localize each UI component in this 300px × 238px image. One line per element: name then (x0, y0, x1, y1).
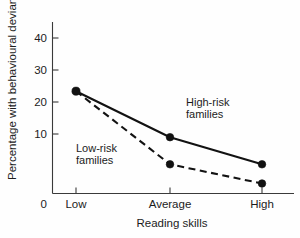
y-tick-label-30: 30 (34, 64, 47, 76)
high-risk-annotation-line1: High-risk (186, 96, 230, 108)
y-axis-title: Percentage with behavioural deviance (6, 0, 18, 180)
y-tick-label-20: 20 (34, 96, 47, 108)
y-tick-label-10: 10 (34, 128, 47, 140)
y-tick-label-40: 40 (34, 32, 47, 44)
x-tick-label-high: High (250, 198, 274, 210)
data-point-high-risk-average (166, 133, 174, 141)
x-axis-title: Reading skills (137, 217, 208, 229)
data-point-shared-low (72, 87, 80, 95)
x-tick-label-low: Low (65, 198, 87, 210)
low-risk-annotation-line2: families (76, 154, 114, 166)
chart-container: Percentage with behavioural deviance 40 … (0, 0, 300, 238)
x-tick-label-average: Average (149, 198, 192, 210)
low-risk-annotation-line1: Low-risk (76, 142, 117, 154)
high-risk-annotation-line2: families (186, 108, 224, 120)
data-point-low-risk-high (258, 180, 266, 188)
data-point-high-risk-high (258, 161, 266, 169)
data-point-low-risk-average (166, 161, 174, 169)
line-chart: Percentage with behavioural deviance 40 … (0, 0, 300, 238)
y-tick-label-0: 0 (41, 198, 47, 210)
